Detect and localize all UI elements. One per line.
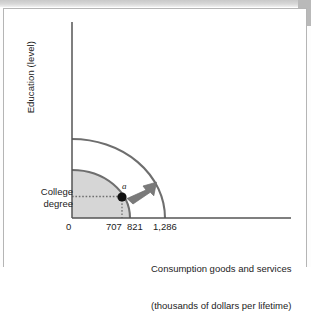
point-label-a: a — [122, 182, 127, 192]
data-point-a — [117, 192, 126, 201]
x-tick-label-0: 0 — [66, 222, 71, 232]
x-axis-label-line2: (thousands of dollars per lifetime) — [151, 300, 291, 312]
x-tick-label-821: 821 — [127, 222, 143, 232]
y-tick-label-college-degree: College degree — [33, 186, 73, 210]
y-axis-label: Education (level) — [26, 22, 36, 132]
x-axis-label-line1: Consumption goods and services — [151, 263, 291, 275]
x-axis-label: Consumption goods and services (thousand… — [151, 239, 291, 315]
growth-arrow-icon — [127, 182, 157, 204]
x-tick-label-1286: 1,286 — [153, 222, 177, 232]
x-tick-label-707: 707 — [106, 222, 122, 232]
